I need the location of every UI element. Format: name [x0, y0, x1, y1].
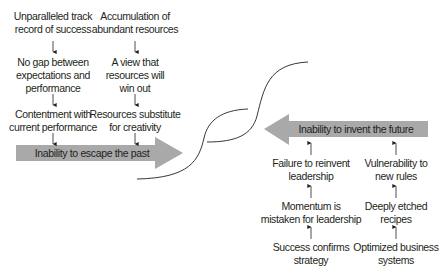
node-line: abundant resources [92, 23, 179, 36]
node-accumulation-resources: Accumulation of abundant resources [92, 10, 179, 36]
node-line: strategy [273, 254, 350, 267]
node-success-confirms: Success confirms strategy [273, 241, 350, 267]
node-line: Optimized business [353, 241, 438, 254]
node-line: Resources substitute [89, 108, 180, 121]
diagram-canvas [0, 0, 443, 277]
node-line: Deeply etched [365, 200, 428, 213]
node-failure-reinvent: Failure to reinvent leadership [272, 157, 349, 183]
invent-future-banner: Inability to invent the future [299, 123, 414, 135]
node-resources-win-out: A view that resources will win out [106, 56, 165, 95]
node-momentum: Momentum is mistaken for leadership [261, 200, 362, 226]
node-line: expectations and [16, 69, 90, 82]
node-unparalleled-track-record: Unparalleled track record of success [14, 10, 92, 36]
node-line: performance [16, 82, 90, 95]
node-line: win out [106, 82, 165, 95]
node-line: Failure to reinvent [272, 157, 349, 170]
node-line: resources will [106, 69, 165, 82]
node-no-gap: No gap between expectations and performa… [16, 56, 90, 95]
node-line: Momentum is [261, 200, 362, 213]
node-line: No gap between [16, 56, 90, 69]
node-line: mistaken for leadership [261, 213, 362, 226]
node-line: record of success [14, 23, 92, 36]
node-line: systems [353, 254, 438, 267]
node-line: A view that [106, 56, 165, 69]
node-line: new rules [365, 170, 428, 183]
node-line: for creativity [89, 121, 180, 134]
node-line: Unparalleled track [14, 10, 92, 23]
node-line: Accumulation of [92, 10, 179, 23]
node-line: Success confirms [273, 241, 350, 254]
escape-past-banner: Inability to escape the past [35, 147, 150, 159]
node-vulnerability: Vulnerability to new rules [365, 157, 428, 183]
node-contentment: Contentment with current performance [9, 108, 97, 134]
node-line: leadership [272, 170, 349, 183]
node-line: current performance [9, 121, 97, 134]
node-deeply-etched: Deeply etched recipes [365, 200, 428, 226]
node-line: Contentment with [9, 108, 97, 121]
node-line: Vulnerability to [365, 157, 428, 170]
node-resources-substitute: Resources substitute for creativity [89, 108, 180, 134]
node-line: recipes [365, 213, 428, 226]
node-optimized-systems: Optimized business systems [353, 241, 438, 267]
